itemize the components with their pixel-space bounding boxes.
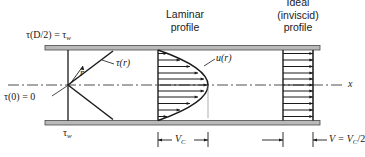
- tau-center-label: τ(0) = 0: [4, 91, 35, 103]
- centerline-velocity-dimension-label: VC: [175, 133, 186, 145]
- ideal-profile-heading: Ideal (inviscid) profile: [265, 0, 331, 34]
- tau-wall-top-label: τ(D/2) = τw: [26, 29, 71, 41]
- mean-velocity-suffix: /2: [357, 133, 365, 144]
- radius-label: r: [80, 67, 84, 79]
- mean-velocity-dimension-label: V = VC/2: [329, 133, 365, 145]
- centerline-velocity-subscript: C: [181, 138, 186, 146]
- mean-velocity-prefix: V = V: [329, 133, 353, 144]
- dimension-mean-velocity: [313, 132, 327, 147]
- ideal-heading-line-1: Ideal: [265, 0, 331, 9]
- laminar-velocity-profile: [158, 50, 215, 121]
- pipe-flow-velocity-profile-figure: τ(D/2) = τw τ(r) r τ(0) = 0 τw u(r) x La…: [0, 0, 365, 157]
- ideal-velocity-profile: [283, 50, 313, 121]
- velocity-profile-leader-line: [204, 59, 215, 66]
- shear-profile-lower-branch: [68, 85, 113, 120]
- mean-velocity-subscript: C: [353, 138, 358, 146]
- laminar-velocity-arrows: [158, 52, 207, 118]
- velocity-profile-label: u(r): [216, 52, 232, 64]
- pipe-wall-top: [45, 46, 320, 51]
- dimension-mean-velocity-left-tick: [262, 132, 283, 147]
- shear-profile-upper-branch: [68, 51, 113, 85]
- laminar-heading-line-2: profile: [152, 21, 218, 34]
- ideal-heading-line-3: profile: [265, 21, 331, 34]
- pipe-wall-bottom: [45, 121, 320, 126]
- x-axis-label: x: [348, 78, 352, 90]
- tau-wall-bottom-label: τw: [63, 127, 72, 139]
- ideal-heading-line-2: (inviscid): [265, 9, 331, 22]
- tau-wall-bottom-subscript: w: [67, 132, 72, 140]
- tau-zero-leader-line: [52, 86, 67, 96]
- ideal-velocity-arrows: [283, 52, 313, 118]
- laminar-profile-heading: Laminar profile: [152, 8, 218, 33]
- tau-wall-top-text: τ(D/2) = τ: [26, 29, 66, 40]
- laminar-heading-line-1: Laminar: [152, 8, 218, 21]
- tau-r-label: τ(r): [116, 57, 130, 69]
- tau-r-leader-line: [102, 60, 114, 64]
- tau-wall-top-subscript: w: [66, 34, 71, 42]
